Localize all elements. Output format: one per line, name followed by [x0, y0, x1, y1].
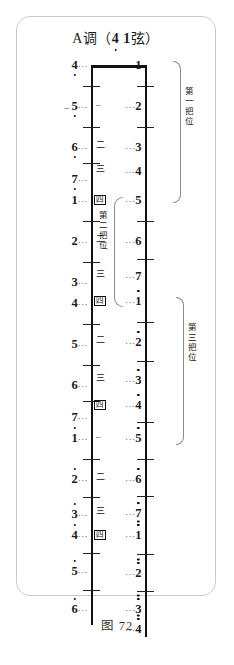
- note-number: 1: [135, 529, 141, 542]
- note-connector: ···: [78, 61, 88, 71]
- note-left-6: 3···: [17, 276, 88, 289]
- finger-mark-right-13: 三: [96, 507, 106, 516]
- note-number: 3: [135, 603, 141, 616]
- note-connector: ···: [125, 531, 135, 541]
- note-number: 6: [72, 141, 78, 154]
- fret-tick: [137, 591, 154, 592]
- note-number: 5: [72, 100, 78, 113]
- note-number: 2: [135, 100, 141, 113]
- note-number: 3: [72, 276, 78, 289]
- note-right-14: ···1四: [125, 529, 141, 542]
- finger-mark-right-10: 四: [94, 400, 106, 410]
- note-right-7: ···1四: [125, 295, 141, 308]
- finger-mark-right-3: 三: [96, 165, 106, 174]
- note-connector: ···: [78, 102, 88, 112]
- finger-mark-right-4: 四: [94, 195, 106, 205]
- figure-title-note-low: 4: [112, 31, 120, 47]
- figure-card: A调（41弦） 4···–5···6···7···1···2···3···4··…: [16, 16, 216, 596]
- note-number: 7: [72, 411, 78, 424]
- note-connector: ···: [78, 175, 88, 185]
- finger-mark-right-14: 四: [94, 530, 106, 540]
- finger-mark-right-8: 二: [96, 336, 106, 345]
- note-connector: ···: [78, 196, 88, 206]
- note-connector: ···: [125, 475, 135, 485]
- fret-tick: [83, 324, 100, 325]
- note-left-8: 5···: [17, 338, 88, 351]
- fret-tick: [83, 262, 100, 263]
- note-left-4: 1···: [17, 194, 88, 207]
- note-connector: ···: [78, 413, 88, 423]
- note-connector: ···: [125, 61, 135, 71]
- fret-tick: [137, 459, 154, 460]
- note-connector: ···: [78, 237, 88, 247]
- note-number: 7: [135, 507, 141, 520]
- fingerboard-diagram: 4···–5···6···7···1···2···3···4···5···6··…: [17, 61, 217, 591]
- note-right-16: ···3: [125, 603, 141, 616]
- fret-tick: [137, 322, 154, 323]
- fret-tick: [137, 361, 154, 362]
- note-connector: ···: [125, 102, 135, 112]
- note-number: 3: [72, 508, 78, 521]
- note-right-15: ···2: [125, 567, 141, 580]
- note-number: 5: [72, 565, 78, 578]
- note-right-5: ···6二: [125, 235, 141, 248]
- note-number: 6: [72, 603, 78, 616]
- note-right-12: ···6二: [125, 473, 141, 486]
- figure-title-suffix: 弦）: [131, 31, 160, 46]
- note-number: 7: [72, 173, 78, 186]
- note-connector: ···: [78, 531, 88, 541]
- note-left-5: 2···: [17, 235, 88, 248]
- note-connector: ···: [125, 167, 135, 177]
- finger-mark-right-12: 二: [96, 473, 106, 482]
- note-right-10: ···4四: [125, 399, 141, 412]
- fret-tick: [83, 86, 100, 87]
- position-bracket-1: [173, 61, 181, 203]
- note-number: 4: [72, 59, 78, 72]
- note-connector: ···: [78, 340, 88, 350]
- note-left-7: 4···: [17, 297, 88, 310]
- note-connector: ···: [125, 434, 135, 444]
- note-right-4: ···5四: [125, 194, 141, 207]
- note-number: 4: [135, 399, 141, 412]
- note-left-14: 4···: [17, 529, 88, 542]
- note-number: 3: [135, 374, 141, 387]
- note-connector: ···: [125, 237, 135, 247]
- note-number: 1: [72, 194, 78, 207]
- note-connector: ···: [125, 272, 135, 282]
- note-connector: ···: [78, 605, 88, 615]
- note-connector: ···: [125, 297, 135, 307]
- note-connector: ···: [78, 434, 88, 444]
- note-connector: ···: [78, 299, 88, 309]
- note-number: 5: [135, 194, 141, 207]
- note-right-0: ···1: [125, 59, 141, 72]
- figure-title-note-high: 1: [123, 31, 131, 46]
- fret-tick: [137, 496, 154, 497]
- note-connector: ···: [78, 278, 88, 288]
- note-connector: ···: [125, 605, 135, 615]
- finger-mark-left-1: –: [65, 102, 70, 112]
- note-right-13: ···7三: [125, 507, 141, 520]
- note-right-3: ···4三: [125, 165, 141, 178]
- string-4-line: [91, 65, 93, 625]
- fret-tick: [83, 497, 100, 498]
- note-left-3: 7···: [17, 173, 88, 186]
- note-left-9: 6···: [17, 379, 88, 392]
- string-1-line: [145, 65, 147, 637]
- figure-title-prefix: A调（: [72, 31, 112, 46]
- note-number: 3: [135, 141, 141, 154]
- fret-tick: [83, 127, 100, 128]
- note-number: 2: [72, 473, 78, 486]
- position-label-3: 第三把位: [186, 323, 196, 363]
- finger-mark-right-6: 三: [96, 270, 106, 279]
- fret-tick: [83, 365, 100, 366]
- note-left-11: 1···: [17, 432, 88, 445]
- note-number: 1: [72, 432, 78, 445]
- note-number: 7: [135, 270, 141, 283]
- note-left-13: 3···: [17, 508, 88, 521]
- finger-mark-right-2: 二: [96, 141, 106, 150]
- note-number: 6: [72, 379, 78, 392]
- position-label-2: 第二把位: [97, 211, 107, 251]
- note-left-16: 6···: [17, 603, 88, 616]
- finger-mark-right-1: –: [96, 100, 101, 109]
- note-number: 2: [72, 235, 78, 248]
